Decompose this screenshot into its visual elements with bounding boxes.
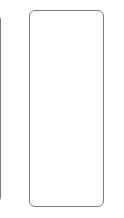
card-carousel	[0, 0, 124, 218]
previous-card[interactable]	[0, 14, 1, 203]
current-card[interactable]	[29, 10, 104, 207]
